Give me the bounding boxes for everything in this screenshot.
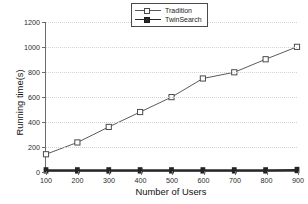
legend-label: TwinSearch xyxy=(165,16,202,23)
series-line xyxy=(46,47,297,154)
y-axis-tick xyxy=(42,22,46,23)
x-axis-tick-label: 300 xyxy=(103,176,115,185)
y-axis-tick xyxy=(42,97,46,98)
y-axis-tick-label: 1200 xyxy=(24,18,40,27)
gridline-horizontal xyxy=(46,47,297,48)
y-axis-tick-label: 600 xyxy=(28,93,40,102)
plot-area: 0200400600800100012001002003004005006007… xyxy=(45,22,297,172)
x-axis-tick-label: 100 xyxy=(40,176,52,185)
x-axis-tick xyxy=(204,171,205,175)
legend: Tradition TwinSearch xyxy=(131,3,208,27)
x-axis-tick xyxy=(78,171,79,175)
x-axis-tick-label: 800 xyxy=(261,176,273,185)
y-axis-tick-label: 1000 xyxy=(24,43,40,52)
gridline-horizontal xyxy=(46,122,297,123)
legend-swatch-filled-square-icon xyxy=(135,15,161,24)
x-axis-tick-label: 600 xyxy=(198,176,210,185)
gridline-horizontal xyxy=(46,147,297,148)
y-axis-tick xyxy=(42,122,46,123)
x-axis-tick-label: 400 xyxy=(135,176,147,185)
x-axis-tick xyxy=(298,171,299,175)
legend-swatch-open-square-icon xyxy=(135,6,161,15)
chart-figure: 0200400600800100012001002003004005006007… xyxy=(0,0,308,204)
y-axis-tick xyxy=(42,147,46,148)
x-axis-tick xyxy=(172,171,173,175)
y-axis-tick xyxy=(42,47,46,48)
x-axis-tick-label: 700 xyxy=(229,176,241,185)
data-point-marker xyxy=(75,140,80,145)
legend-label: Tradition xyxy=(165,7,192,14)
x-axis-tick xyxy=(235,171,236,175)
y-axis-tick-label: 400 xyxy=(28,118,40,127)
x-axis-tick-label: 200 xyxy=(72,176,84,185)
gridline-horizontal xyxy=(46,97,297,98)
x-axis-tick-label: 500 xyxy=(166,176,178,185)
x-axis-title: Number of Users xyxy=(45,186,297,197)
legend-item-twinsearch: TwinSearch xyxy=(135,15,202,24)
y-axis-tick xyxy=(42,72,46,73)
gridline-horizontal xyxy=(46,72,297,73)
data-point-marker xyxy=(138,109,143,114)
data-point-marker xyxy=(200,76,205,81)
y-axis-tick-label: 200 xyxy=(28,143,40,152)
x-axis-tick xyxy=(267,171,268,175)
data-point-marker xyxy=(263,57,268,62)
x-axis-tick xyxy=(141,171,142,175)
x-axis-tick xyxy=(109,171,110,175)
x-axis-tick xyxy=(46,171,47,175)
data-point-marker xyxy=(106,124,111,129)
data-point-marker xyxy=(43,152,48,157)
y-axis-title: Running time(s) xyxy=(14,43,25,163)
legend-item-tradition: Tradition xyxy=(135,6,202,15)
y-axis-tick-label: 800 xyxy=(28,68,40,77)
x-axis-tick-label: 900 xyxy=(292,176,304,185)
